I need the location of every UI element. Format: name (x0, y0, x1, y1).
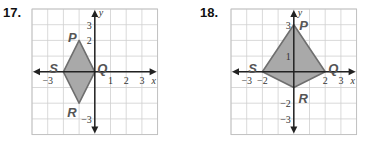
y-axis-down-arrow-icon (290, 127, 297, 134)
vertex-label-Q: Q (97, 61, 107, 76)
y-tick-label: 1 (286, 51, 291, 62)
graph-18: xy−3−22331−2−3PQRS (231, 7, 357, 135)
y-tick-label: 3 (286, 20, 291, 31)
x-tick-label: 3 (338, 75, 343, 86)
y-axis-up-arrow-icon (91, 10, 98, 17)
x-axis-left-arrow-icon (33, 68, 40, 75)
y-tick-label: −2 (280, 98, 291, 109)
vertex-label-R: R (67, 105, 77, 120)
y-tick-label: −3 (280, 114, 291, 125)
x-tick-label: 3 (139, 75, 144, 86)
x-tick-label: −3 (241, 75, 252, 86)
x-tick-label: 2 (323, 75, 328, 86)
y-axis-label: y (98, 7, 104, 18)
y-axis-up-arrow-icon (290, 10, 297, 17)
x-tick-label: −2 (257, 75, 268, 86)
y-axis-down-arrow-icon (91, 127, 98, 134)
vertex-label-Q: Q (328, 61, 338, 76)
vertex-label-R: R (299, 91, 309, 106)
x-tick-label: 1 (108, 75, 113, 86)
x-tick-label: 2 (124, 75, 129, 86)
vertex-label-S: S (49, 61, 58, 76)
vertex-label-P: P (68, 30, 77, 45)
x-tick-label: −3 (42, 75, 53, 86)
x-axis-left-arrow-icon (232, 68, 239, 75)
y-tick-label: 2 (87, 35, 92, 46)
x-axis-label: x (151, 75, 157, 86)
y-tick-label: 3 (87, 20, 92, 31)
graph-17: xy−312332−3PQRS (32, 7, 158, 135)
y-axis-label: y (297, 7, 303, 18)
y-tick-label: −3 (81, 114, 92, 125)
vertex-label-S: S (248, 61, 257, 76)
vertex-label-P: P (299, 18, 308, 33)
coordinate-graphs: xy−312332−3PQRSxy−3−22331−2−3PQRS (0, 0, 378, 144)
x-axis-label: x (350, 75, 356, 86)
